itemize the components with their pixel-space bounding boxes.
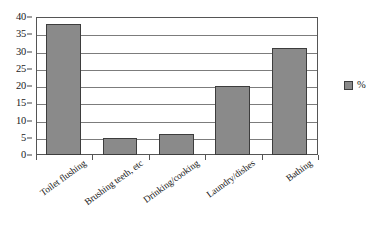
bar-slot [262,17,318,155]
bar [46,24,81,155]
bar [103,138,138,155]
x-axis-label: Laundry/dishes [205,158,258,201]
y-tick-label: 10 [16,116,26,126]
x-axis-label: Brushing teeth, etc [82,158,145,208]
legend-swatch-percent [344,81,353,90]
bar-slot [36,17,92,155]
bar-chart: 0510152025303540 Toilet flushingBrushing… [0,0,390,239]
y-tick-mark [27,137,32,138]
y-tick-mark [27,86,32,87]
y-axis: 0510152025303540 [0,17,32,155]
y-tick-mark [27,155,32,156]
y-tick-mark [27,120,32,121]
y-tick-label: 15 [16,98,26,108]
y-tick-mark [27,103,32,104]
y-tick-label: 25 [16,64,26,74]
bar [215,86,250,155]
bar [159,134,194,155]
x-axis-label: Drinking/cooking [142,158,202,206]
bar-slot [149,17,205,155]
y-tick-label: 20 [16,81,26,91]
y-tick-mark [27,34,32,35]
y-tick-label: 30 [16,47,26,57]
x-axis-labels: Toilet flushingBrushing teeth, etcDrinki… [36,158,336,238]
y-tick-label: 35 [16,29,26,39]
y-tick-label: 5 [21,133,26,143]
y-tick-mark [27,17,32,18]
y-tick-mark [27,51,32,52]
bar [272,48,307,155]
x-axis-label: Bathing [284,158,314,184]
y-tick-mark [27,68,32,69]
bar-slot [205,17,261,155]
bars-layer [36,17,318,155]
bar-slot [92,17,148,155]
legend: % [344,80,366,90]
y-tick-label: 40 [16,12,26,22]
y-tick-label: 0 [21,150,26,160]
legend-label-percent: % [357,80,366,90]
x-axis-label: Toilet flushing [39,158,89,199]
